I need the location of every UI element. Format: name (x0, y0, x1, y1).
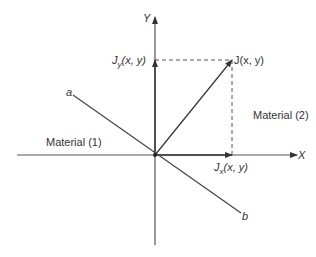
diagram-graphics (0, 0, 316, 257)
x-axis-label: X (298, 150, 305, 161)
jy-args: (x, y) (122, 54, 146, 66)
jx-args: (x, y) (224, 161, 248, 173)
y-axis-label: Y (143, 13, 150, 24)
j-vector-arrow (155, 60, 232, 155)
boundary-end-a-label: a (66, 87, 72, 98)
material-boundary-line (73, 95, 241, 213)
jx-label: Jx(x, y) (214, 162, 248, 176)
boundary-end-b-label: b (242, 211, 248, 222)
material-1-label: Material (1) (46, 137, 102, 148)
current-density-diagram: Y X Jy(x, y) J(x, y) Jx(x, y) a b Materi… (0, 0, 316, 257)
material-2-label: Material (2) (253, 110, 309, 121)
jy-label: Jy(x, y) (112, 55, 146, 69)
origin-point (153, 153, 157, 157)
j-vector-label: J(x, y) (234, 55, 264, 66)
